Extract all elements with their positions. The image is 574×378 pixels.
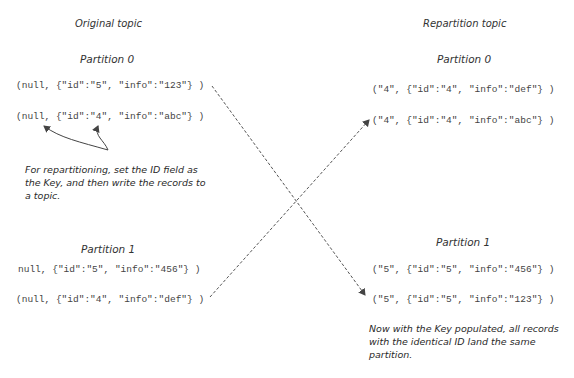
repartition-p0-record-2: ("4", {"id":"4", "info":"abc"} ) [372, 115, 554, 126]
original-p1-record-1: null, {"id":"5", "info":"456"} ) [18, 264, 200, 275]
original-topic-title: Original topic [75, 18, 142, 29]
callout-arrow-to-id [97, 126, 108, 150]
repartition-p1-record-2: ("5", {"id":"5", "info":"123"} ) [372, 294, 554, 305]
repartition-p1-record-1: ("5", {"id":"5", "info":"456"} ) [372, 264, 554, 275]
original-partition-1-title: Partition 1 [81, 243, 135, 255]
original-p0-record-2: (null, {"id":"4", "info":"abc"} ) [16, 111, 204, 122]
original-partition-0-title: Partition 0 [80, 53, 134, 65]
callout-arrow-to-key [44, 126, 108, 150]
original-topic-note: For repartitioning, set the ID field as … [25, 163, 210, 202]
repartition-topic-note: Now with the Key populated, all records … [369, 322, 564, 361]
dashed-arrow-to-partition-0 [210, 120, 369, 297]
repartition-topic-title: Repartition topic [423, 18, 506, 29]
original-p1-record-2: (null, {"id":"4", "info":"def"} ) [16, 294, 204, 305]
dashed-arrow-to-partition-1 [212, 86, 365, 295]
original-p0-record-1: (null, {"id":"5", "info":"123"} ) [16, 80, 204, 91]
repartition-partition-0-title: Partition 0 [437, 53, 491, 65]
repartition-p0-record-1: ("4", {"id":"4", "info":"def"} ) [372, 84, 554, 95]
repartition-partition-1-title: Partition 1 [436, 236, 490, 248]
